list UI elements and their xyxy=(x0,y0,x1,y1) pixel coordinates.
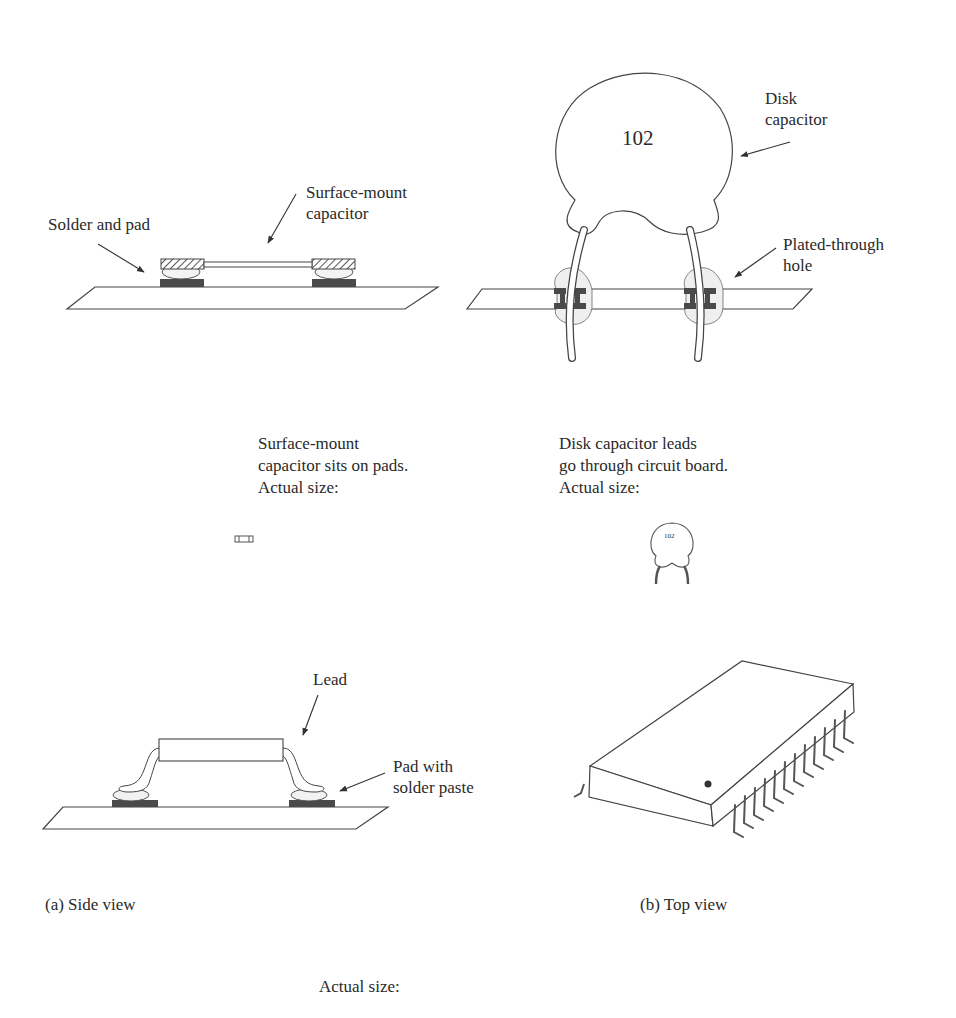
pin-left xyxy=(574,784,584,797)
label-solder-and-pad: Solder and pad xyxy=(48,214,150,235)
ic-package-drawing xyxy=(574,661,854,837)
smd-actual-size-icon xyxy=(235,536,253,542)
circuit-board xyxy=(467,289,812,309)
small-disk-marking: 102 xyxy=(664,532,675,541)
arrow-to-pad xyxy=(98,244,144,272)
smt-lead-drawing xyxy=(43,695,388,829)
label-lead: Lead xyxy=(313,669,347,690)
caption-side-view: (a) Side view xyxy=(45,894,136,916)
disk-capacitor-drawing xyxy=(467,73,812,358)
label-surface-mount-capacitor: Surface-mount capacitor xyxy=(306,182,407,224)
lead-right xyxy=(283,748,324,792)
end-cap-right xyxy=(312,259,355,269)
caption-smd: Surface-mount capacitor sits on pads. Ac… xyxy=(258,433,408,499)
pin1-marker xyxy=(705,781,712,788)
disk-capacitor-body xyxy=(556,73,733,234)
caption-actual-size: Actual size: xyxy=(319,976,400,998)
diagram-canvas xyxy=(0,0,956,1018)
disk-marking: 102 xyxy=(622,128,654,149)
arrow-to-disk xyxy=(741,142,790,156)
arrow-to-pad xyxy=(340,773,385,791)
caption-disk: Disk capacitor leads go through circuit … xyxy=(559,433,728,499)
pad-left xyxy=(160,279,204,287)
circuit-board xyxy=(67,287,438,309)
caption-top-view: (b) Top view xyxy=(640,894,727,916)
arrow-to-lead xyxy=(303,695,318,735)
lead-left xyxy=(119,748,160,792)
component-body xyxy=(159,739,283,761)
label-pad-with-solder-paste: Pad with solder paste xyxy=(393,756,474,798)
circuit-board xyxy=(43,807,388,829)
arrow-to-capacitor xyxy=(268,194,296,243)
label-disk-capacitor: Disk capacitor xyxy=(765,88,827,130)
capacitor-body xyxy=(204,262,312,267)
pad-right xyxy=(312,279,356,287)
label-plated-through-hole: Plated-through hole xyxy=(783,234,884,276)
end-cap-left xyxy=(161,259,204,269)
arrow-to-hole xyxy=(735,248,776,277)
